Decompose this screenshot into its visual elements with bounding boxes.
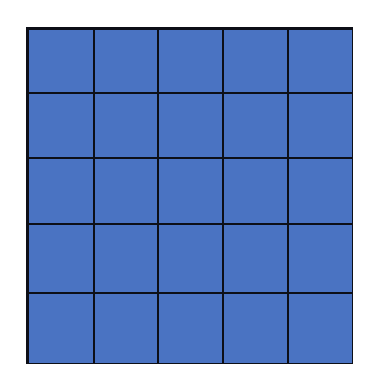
- grid-cell-r4-c5: [289, 225, 352, 292]
- grid-cell-r2-c3: [159, 94, 222, 157]
- grid-cell-r3-c1: [29, 159, 93, 223]
- grid-cell-r1-c5: [289, 30, 352, 92]
- grid-cell-r4-c3: [159, 225, 222, 292]
- grid-cell-r2-c1: [29, 94, 93, 157]
- grid-cell-r5-c1: [29, 294, 93, 363]
- grid-cell-r1-c2: [95, 30, 157, 92]
- grid-cell-r4-c4: [224, 225, 287, 292]
- grid-cell-r3-c3: [159, 159, 222, 223]
- grid-cell-r2-c4: [224, 94, 287, 157]
- grid-cell-r1-c1: [29, 30, 93, 92]
- grid-cell-r5-c2: [95, 294, 157, 363]
- grid-cell-r5-c3: [159, 294, 222, 363]
- grid-cell-r5-c4: [224, 294, 287, 363]
- grid-cell-r2-c2: [95, 94, 157, 157]
- grid-cell-r3-c5: [289, 159, 352, 223]
- grid-cell-r3-c4: [224, 159, 287, 223]
- grid-cell-r3-c2: [95, 159, 157, 223]
- grid-5x5: [26, 27, 353, 364]
- grid-cell-r5-c5: [289, 294, 352, 363]
- grid-cell-r1-c4: [224, 30, 287, 92]
- grid-cell-r4-c1: [29, 225, 93, 292]
- grid-cell-r2-c5: [289, 94, 352, 157]
- grid-cell-r1-c3: [159, 30, 222, 92]
- grid-cell-r4-c2: [95, 225, 157, 292]
